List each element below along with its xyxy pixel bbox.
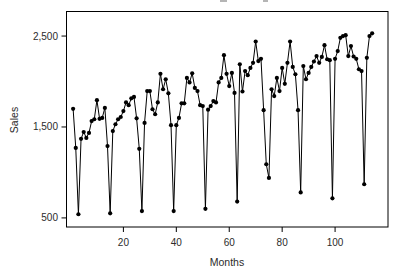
- data-point: [288, 39, 292, 43]
- data-point: [174, 123, 178, 127]
- data-point: [172, 209, 176, 213]
- data-point: [359, 69, 363, 73]
- data-point: [291, 65, 295, 69]
- data-point: [187, 80, 191, 84]
- data-point: [153, 112, 157, 116]
- data-point: [74, 146, 78, 150]
- data-point: [227, 84, 231, 88]
- data-point: [240, 89, 244, 93]
- data-point: [214, 100, 218, 104]
- data-point: [135, 116, 139, 120]
- data-point: [235, 199, 239, 203]
- data-point: [254, 39, 258, 43]
- data-point: [230, 71, 234, 75]
- x-tick-label: 60: [224, 237, 236, 248]
- data-point: [169, 123, 173, 127]
- data-point: [108, 211, 112, 215]
- chart-figure: 5001,5002,50020406080100 Sales Months: [0, 0, 393, 276]
- data-point: [299, 190, 303, 194]
- data-point: [336, 49, 340, 53]
- sales-time-series-plot: 5001,5002,50020406080100: [0, 0, 393, 276]
- data-point: [262, 108, 266, 112]
- data-point: [251, 61, 255, 65]
- data-point: [267, 176, 271, 180]
- data-point: [121, 109, 125, 113]
- data-point: [248, 66, 252, 70]
- data-point: [105, 144, 109, 148]
- data-point: [113, 122, 117, 126]
- data-point: [365, 56, 369, 60]
- data-point: [84, 136, 88, 140]
- x-tick-label: 80: [277, 237, 289, 248]
- data-point: [156, 100, 160, 104]
- data-point: [217, 80, 221, 84]
- data-point: [127, 103, 131, 107]
- data-point: [195, 89, 199, 93]
- data-point: [296, 108, 300, 112]
- data-point: [209, 104, 213, 108]
- data-point: [312, 59, 316, 63]
- data-point: [92, 117, 96, 121]
- data-point: [100, 116, 104, 120]
- data-point: [111, 129, 115, 133]
- x-tick-label: 20: [118, 237, 130, 248]
- data-point: [95, 98, 99, 102]
- data-point: [201, 104, 205, 108]
- data-point: [140, 209, 144, 213]
- data-point: [283, 82, 287, 86]
- data-point: [150, 107, 154, 111]
- data-point: [103, 106, 107, 110]
- data-point: [307, 71, 311, 75]
- data-point: [320, 55, 324, 59]
- data-point: [362, 182, 366, 186]
- data-point: [309, 65, 313, 69]
- data-point: [185, 76, 189, 80]
- data-point: [246, 73, 250, 77]
- data-point: [275, 76, 279, 80]
- data-point: [322, 43, 326, 47]
- data-point: [87, 131, 91, 135]
- y-tick-label: 1,500: [33, 121, 58, 132]
- data-point: [354, 57, 358, 61]
- data-point: [314, 54, 318, 58]
- data-point: [76, 212, 80, 216]
- data-point: [280, 66, 284, 70]
- data-point: [166, 91, 170, 95]
- data-point: [82, 130, 86, 134]
- y-axis-label: Sales: [8, 107, 20, 133]
- data-point: [330, 196, 334, 200]
- data-point: [238, 62, 242, 66]
- data-point: [301, 64, 305, 68]
- data-point: [142, 121, 146, 125]
- x-tick-label: 40: [171, 237, 183, 248]
- data-point: [164, 77, 168, 81]
- data-point: [137, 147, 141, 151]
- data-point: [158, 72, 162, 76]
- data-point: [264, 162, 268, 166]
- data-point: [272, 94, 276, 98]
- data-point: [293, 72, 297, 76]
- data-point: [333, 57, 337, 61]
- data-point: [232, 91, 236, 95]
- y-tick-label: 2,500: [33, 31, 58, 42]
- data-point: [203, 207, 207, 211]
- plot-frame: [67, 12, 389, 228]
- x-axis-label: Months: [210, 256, 244, 268]
- data-point: [190, 71, 194, 75]
- data-point: [219, 76, 223, 80]
- data-point: [370, 31, 374, 35]
- data-point: [259, 57, 263, 61]
- data-point: [317, 61, 321, 65]
- data-point: [132, 95, 136, 99]
- data-point: [119, 115, 123, 119]
- data-point: [269, 87, 273, 91]
- x-tick-label: 100: [327, 237, 344, 248]
- data-point: [349, 44, 353, 48]
- data-point: [71, 107, 75, 111]
- data-point: [161, 87, 165, 91]
- data-point: [148, 89, 152, 93]
- data-point: [224, 72, 228, 76]
- data-point: [182, 101, 186, 105]
- data-point: [222, 53, 226, 57]
- data-point: [243, 69, 247, 73]
